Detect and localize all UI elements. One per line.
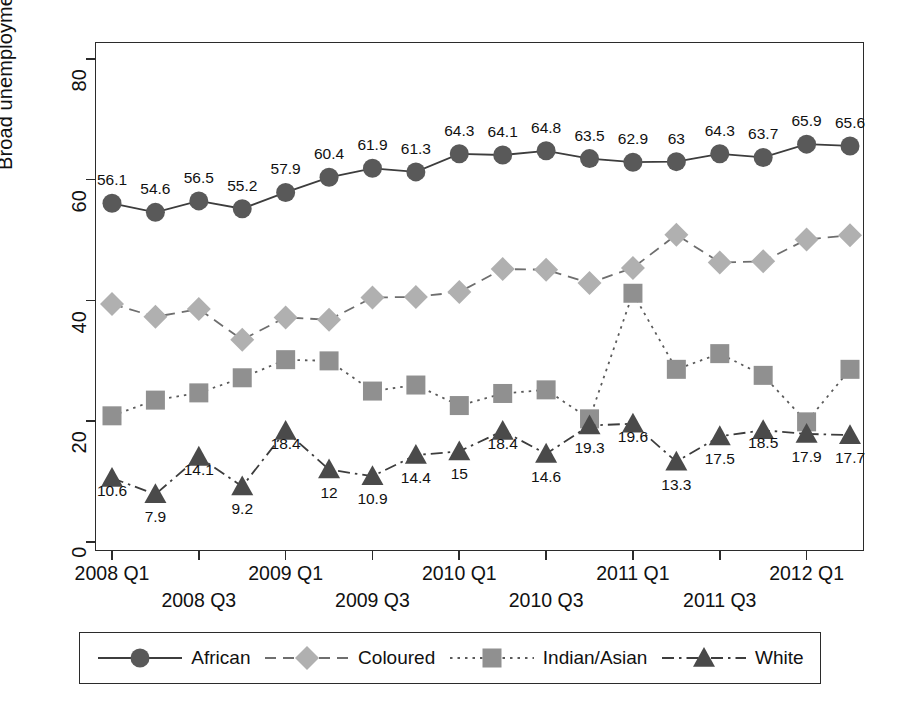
diamond-marker	[100, 292, 124, 316]
series-layer	[0, 0, 898, 711]
circle-marker	[537, 141, 556, 160]
triangle-marker	[144, 483, 166, 503]
point-value-label: 63	[668, 130, 685, 148]
point-value-label: 10.9	[357, 490, 387, 508]
point-value-label: 17.9	[791, 448, 821, 466]
circle-marker	[623, 153, 642, 172]
legend-label: African	[191, 647, 250, 669]
point-value-label: 19.6	[618, 428, 648, 446]
point-value-label: 14.1	[184, 461, 214, 479]
series-coloured	[100, 223, 862, 352]
point-value-label: 61.3	[401, 140, 431, 158]
point-value-label: 7.9	[145, 508, 167, 526]
diamond-marker	[360, 285, 384, 309]
circle-marker	[189, 191, 208, 210]
legend-sample-square-icon	[448, 645, 536, 671]
circle-marker	[131, 649, 150, 668]
diamond-marker	[795, 228, 819, 252]
legend-item-african[interactable]: African	[96, 645, 250, 671]
point-value-label: 56.5	[184, 169, 214, 187]
square-marker	[710, 344, 729, 363]
circle-marker	[754, 148, 773, 167]
point-value-label: 63.7	[748, 125, 778, 143]
square-marker	[841, 360, 860, 379]
legend-label: Coloured	[358, 647, 435, 669]
square-marker	[667, 360, 686, 379]
legend-item-indian-asian[interactable]: Indian/Asian	[448, 645, 648, 671]
point-value-label: 62.9	[618, 130, 648, 148]
point-value-label: 64.8	[531, 119, 561, 137]
point-value-label: 13.3	[661, 476, 691, 494]
series-line	[112, 293, 850, 422]
series-white	[101, 413, 861, 503]
diamond-marker	[295, 646, 319, 670]
point-value-label: 10.6	[97, 482, 127, 500]
series-line	[112, 424, 850, 495]
legend-label: White	[755, 647, 804, 669]
square-marker	[320, 351, 339, 370]
legend-item-white[interactable]: White	[660, 645, 804, 671]
circle-marker	[667, 152, 686, 171]
square-marker	[363, 382, 382, 401]
triangle-marker	[665, 451, 687, 471]
point-value-label: 64.3	[705, 122, 735, 140]
circle-marker	[580, 149, 599, 168]
triangle-marker	[231, 475, 253, 495]
point-value-label: 15	[451, 465, 468, 483]
diamond-marker	[621, 256, 645, 280]
diamond-marker	[708, 250, 732, 274]
point-value-label: 18.4	[271, 435, 301, 453]
circle-marker	[146, 203, 165, 222]
legend-label: Indian/Asian	[543, 647, 648, 669]
diamond-marker	[317, 308, 341, 332]
series-indian-asian	[103, 284, 860, 432]
square-marker	[406, 376, 425, 395]
point-value-label: 18.5	[748, 434, 778, 452]
square-marker	[189, 383, 208, 402]
diamond-marker	[404, 285, 428, 309]
circle-marker	[103, 194, 122, 213]
series-line	[112, 144, 850, 212]
square-marker	[482, 649, 501, 668]
diamond-marker	[187, 297, 211, 321]
point-value-label: 65.6	[835, 114, 865, 132]
square-marker	[146, 391, 165, 410]
circle-marker	[320, 168, 339, 187]
point-value-label: 54.6	[140, 180, 170, 198]
circle-marker	[797, 135, 816, 154]
triangle-marker	[535, 443, 557, 463]
point-value-label: 14.6	[531, 468, 561, 486]
point-value-label: 56.1	[97, 171, 127, 189]
legend-item-coloured[interactable]: Coloured	[263, 645, 435, 671]
circle-marker	[363, 159, 382, 178]
point-value-label: 60.4	[314, 145, 344, 163]
diamond-marker	[664, 223, 688, 247]
square-marker	[103, 406, 122, 425]
point-value-label: 65.9	[791, 112, 821, 130]
series-african	[103, 135, 860, 222]
square-marker	[450, 396, 469, 415]
circle-marker	[233, 199, 252, 218]
square-marker	[623, 284, 642, 303]
point-value-label: 55.2	[227, 177, 257, 195]
diamond-marker	[534, 258, 558, 282]
diamond-marker	[751, 249, 775, 273]
legend-sample-diamond-icon	[263, 645, 351, 671]
diamond-marker	[491, 257, 515, 281]
circle-marker	[406, 162, 425, 181]
diamond-marker	[274, 305, 298, 329]
chart-legend: AfricanColouredIndian/AsianWhite	[79, 632, 821, 684]
triangle-marker	[693, 647, 715, 667]
point-value-label: 17.7	[835, 449, 865, 467]
point-value-label: 19.3	[574, 439, 604, 457]
square-marker	[537, 380, 556, 399]
series-line	[112, 235, 850, 340]
point-value-label: 64.3	[444, 122, 474, 140]
point-value-label: 12	[320, 484, 337, 502]
circle-marker	[493, 145, 512, 164]
point-value-label: 18.4	[488, 435, 518, 453]
circle-marker	[841, 136, 860, 155]
circle-marker	[710, 144, 729, 163]
point-value-label: 57.9	[271, 160, 301, 178]
square-marker	[276, 350, 295, 369]
